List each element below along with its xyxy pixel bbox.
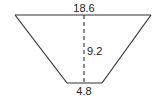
bottom-base-label: 4.8 [76,85,91,97]
right-leg-line [102,15,151,83]
trapezoid-shape [15,15,151,83]
trapezoid-diagram: 18.6 9.2 4.8 [0,0,157,107]
top-base-label: 18.6 [73,2,94,14]
left-leg-line [15,15,67,83]
height-label: 9.2 [87,45,102,57]
